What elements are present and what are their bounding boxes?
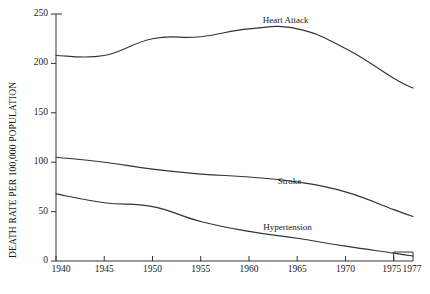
y-tick-label: 150 [22, 107, 48, 117]
y-tick-label: 200 [22, 57, 48, 67]
chart-container: DEATH RATE PER 100,000 POPULATION 050100… [0, 0, 430, 294]
series-line-stroke [56, 157, 413, 216]
x-tick-label: 1940 [44, 264, 78, 274]
y-tick-label: 250 [22, 8, 48, 18]
series-label-stroke: Stroke [278, 176, 302, 186]
y-tick-label: 100 [22, 156, 48, 166]
series-line-hypertension [56, 194, 413, 256]
series-line-heart-attack [56, 26, 413, 88]
x-tick-label: 1960 [232, 264, 266, 274]
x-tick-label: 1977 [395, 264, 429, 274]
x-tick-label: 1950 [135, 264, 169, 274]
x-tick-label: 1965 [280, 264, 314, 274]
x-tick-label: 1945 [87, 264, 121, 274]
x-tick-label: 1955 [184, 264, 218, 274]
chart-axes [51, 14, 413, 261]
chart-series-lines [56, 26, 413, 256]
x-tick-label: 1970 [328, 264, 362, 274]
y-axis-label: DEATH RATE PER 100,000 POPULATION [8, 82, 18, 258]
line-chart-plot [0, 0, 430, 294]
series-label-hypertension: Hypertension [263, 222, 312, 232]
y-tick-label: 50 [22, 206, 48, 216]
series-label-heart-attack: Heart Attack [263, 15, 309, 25]
y-axis-label-wrap: DEATH RATE PER 100,000 POPULATION [8, 0, 26, 294]
